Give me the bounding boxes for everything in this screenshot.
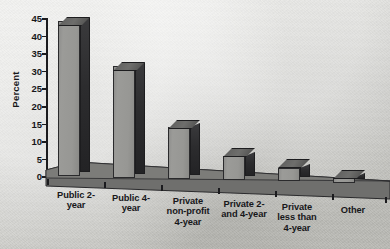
x-label-private-less-than-4-year: Private less than 4-year [266, 202, 328, 233]
bar-side-face [80, 17, 90, 172]
bar-private-nonprofit-4-year [168, 0, 200, 188]
bar-front-face [58, 21, 80, 176]
x-label-line: Other [325, 205, 381, 215]
x-label-line: year [45, 200, 107, 210]
bar-side-face [190, 123, 200, 175]
bar-other [333, 0, 365, 198]
bar-public-2-year [58, 0, 90, 182]
x-label-other: Other [325, 205, 381, 215]
x-tick-mark [275, 191, 277, 197]
bar-side-face [135, 62, 145, 174]
bar-private-less-than-4-year [278, 0, 310, 194]
bar-front-face [113, 66, 135, 178]
x-tick-mark [104, 182, 106, 188]
x-tick-mark [385, 197, 387, 203]
x-label-line: year [100, 203, 162, 213]
x-label-line: Private [266, 202, 328, 212]
x-label-line: 4-year [266, 223, 328, 233]
bar-front-face [278, 168, 300, 181]
x-label-public-2-year: Public 2- year [45, 190, 107, 211]
x-label-public-4-year: Public 4- year [100, 193, 162, 214]
bar-front-face [223, 156, 245, 180]
x-tick-mark [161, 185, 163, 191]
x-label-line: Public 4- [100, 193, 162, 203]
bar-chart: Percent 45 40 35 30 25 20 15 10 5 0 [0, 0, 390, 249]
x-label-line: less than [266, 212, 328, 222]
bar-front-face [168, 127, 190, 179]
x-tick-mark [47, 179, 49, 185]
x-tick-mark [218, 188, 220, 194]
x-label-line: Public 2- [45, 190, 107, 200]
bar-private-2-and-4-year [223, 0, 255, 191]
bar-public-4-year [113, 0, 145, 185]
x-tick-mark [332, 194, 334, 200]
